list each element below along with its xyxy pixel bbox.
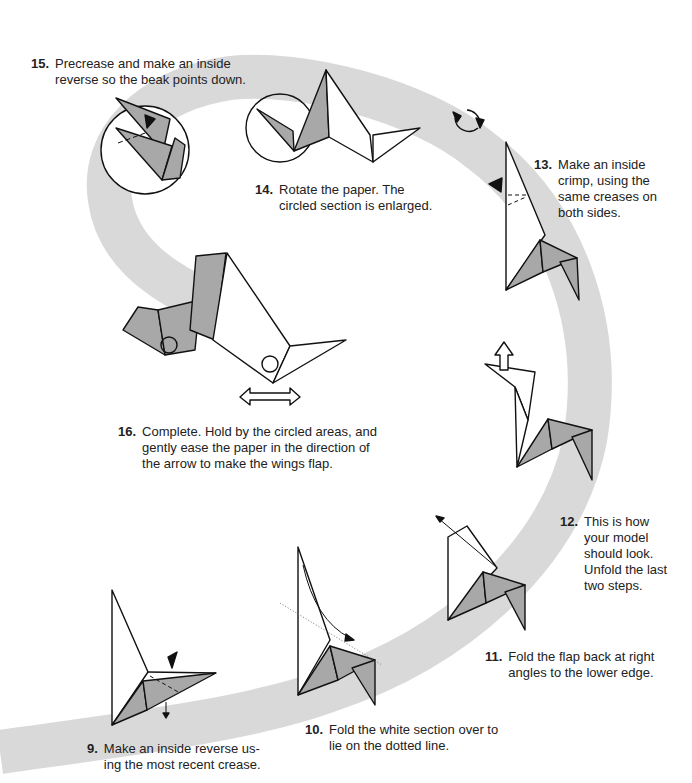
step-12-caption: 12. This is how your model should look. … xyxy=(560,514,667,594)
step-number: 16. xyxy=(118,424,136,472)
push-arrow-icon xyxy=(168,652,177,668)
step-text: This is how your model should look. Unfo… xyxy=(584,514,667,594)
step-11-caption: 11. Fold the flap back at right angles t… xyxy=(485,649,654,681)
valley-fold-arrow-icon xyxy=(436,516,444,522)
step-text: Fold the flap back at right angles to th… xyxy=(508,649,654,681)
step-14-caption: 14. Rotate the paper. The circled sectio… xyxy=(255,182,432,214)
step-text: Rotate the paper. The circled section is… xyxy=(279,182,432,214)
step-number: 10. xyxy=(305,722,323,754)
step-16-caption: 16. Complete. Hold by the circled areas,… xyxy=(118,424,377,472)
step-number: 12. xyxy=(560,514,578,594)
step-number: 14. xyxy=(255,182,273,214)
step-number: 15. xyxy=(31,56,49,88)
step-13-caption: 13. Make an inside crimp, using the same… xyxy=(534,157,657,221)
step-9-caption: 9. Make an inside reverse us- ing the mo… xyxy=(87,741,261,773)
step-text: Complete. Hold by the circled areas, and… xyxy=(142,424,377,472)
step-text: Fold the white section over to lie on th… xyxy=(329,722,498,754)
valley-fold-arrow-icon xyxy=(345,634,354,641)
step-text: Make an inside reverse us- ing the most … xyxy=(104,741,261,773)
double-arrow-icon xyxy=(240,388,300,405)
step-15-caption: 15. Precrease and make an inside reverse… xyxy=(31,56,246,88)
step-text: Make an inside crimp, using the same cre… xyxy=(558,157,657,221)
step-10-caption: 10. Fold the white section over to lie o… xyxy=(305,722,498,754)
step-number: 11. xyxy=(485,649,502,681)
step-number: 13. xyxy=(534,157,552,221)
step-number: 9. xyxy=(87,741,98,773)
step-text: Precrease and make an inside reverse so … xyxy=(55,56,246,88)
